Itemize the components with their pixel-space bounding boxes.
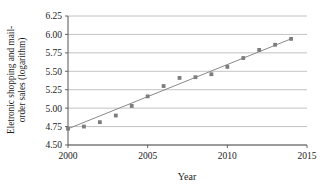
data-point-marker bbox=[178, 76, 182, 80]
x-tick-label: 2010 bbox=[218, 151, 237, 161]
scatter-chart: 4.504.755.005.255.505.756.006.25 2000200… bbox=[0, 0, 323, 185]
x-tick-label: 2005 bbox=[138, 151, 157, 161]
y-tick-label: 4.75 bbox=[45, 122, 62, 132]
x-tick-label: 2000 bbox=[59, 151, 78, 161]
data-point-marker bbox=[114, 114, 118, 118]
y-tick-label: 5.50 bbox=[45, 67, 62, 77]
data-point-marker bbox=[225, 65, 229, 69]
y-tick-label: 5.75 bbox=[45, 48, 62, 58]
data-point-marker bbox=[146, 94, 150, 98]
data-point-marker bbox=[289, 37, 293, 41]
data-point-marker bbox=[273, 43, 277, 47]
x-axis-title: Year bbox=[178, 171, 197, 182]
data-point-marker bbox=[241, 56, 245, 60]
y-tick-label: 5.25 bbox=[45, 85, 62, 95]
y-tick-label: 5.00 bbox=[45, 104, 62, 114]
data-point-marker bbox=[194, 75, 198, 79]
data-point-marker bbox=[210, 72, 214, 76]
chart-figure: 4.504.755.005.255.505.756.006.25 2000200… bbox=[0, 0, 323, 185]
data-point-marker bbox=[257, 48, 261, 52]
x-tick-label: 2015 bbox=[298, 151, 317, 161]
y-axis-title-line2: order sales (logarithm) bbox=[17, 38, 28, 123]
data-point-marker bbox=[98, 120, 102, 124]
data-point-marker bbox=[82, 125, 86, 129]
y-tick-label: 6.25 bbox=[45, 11, 62, 21]
y-tick-label: 6.00 bbox=[45, 30, 62, 40]
y-tick-label: 4.50 bbox=[45, 140, 62, 150]
data-point-marker bbox=[66, 127, 70, 131]
data-point-marker bbox=[162, 84, 166, 88]
data-point-marker bbox=[130, 104, 134, 108]
y-axis-title-line1: Eletronic shopping and mail- bbox=[6, 26, 16, 134]
